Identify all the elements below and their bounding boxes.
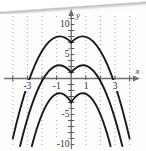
y-tick-label-5: 5 [65, 49, 70, 59]
x-tick-label-neg1: -1 [53, 81, 61, 91]
y-axis-arrow [68, 9, 74, 16]
x-tick-label-neg3: -3 [23, 81, 31, 91]
y-tick-label-neg5: -5 [61, 109, 69, 119]
y-tick-label-10: 10 [60, 19, 70, 29]
x-axis-arrow [133, 76, 140, 82]
x-axis-label: x [135, 66, 140, 76]
x-tick-label-1: 1 [84, 81, 89, 91]
y-axis-label: y [75, 10, 80, 20]
y-tick-label-neg10: -10 [57, 139, 70, 149]
coordinate-plane: 10 5 -5 -10 -3 -1 1 3 y x [0, 0, 146, 151]
graph-figure: 10 5 -5 -10 -3 -1 1 3 y x [0, 0, 146, 151]
x-tick-label-3: 3 [113, 81, 118, 91]
